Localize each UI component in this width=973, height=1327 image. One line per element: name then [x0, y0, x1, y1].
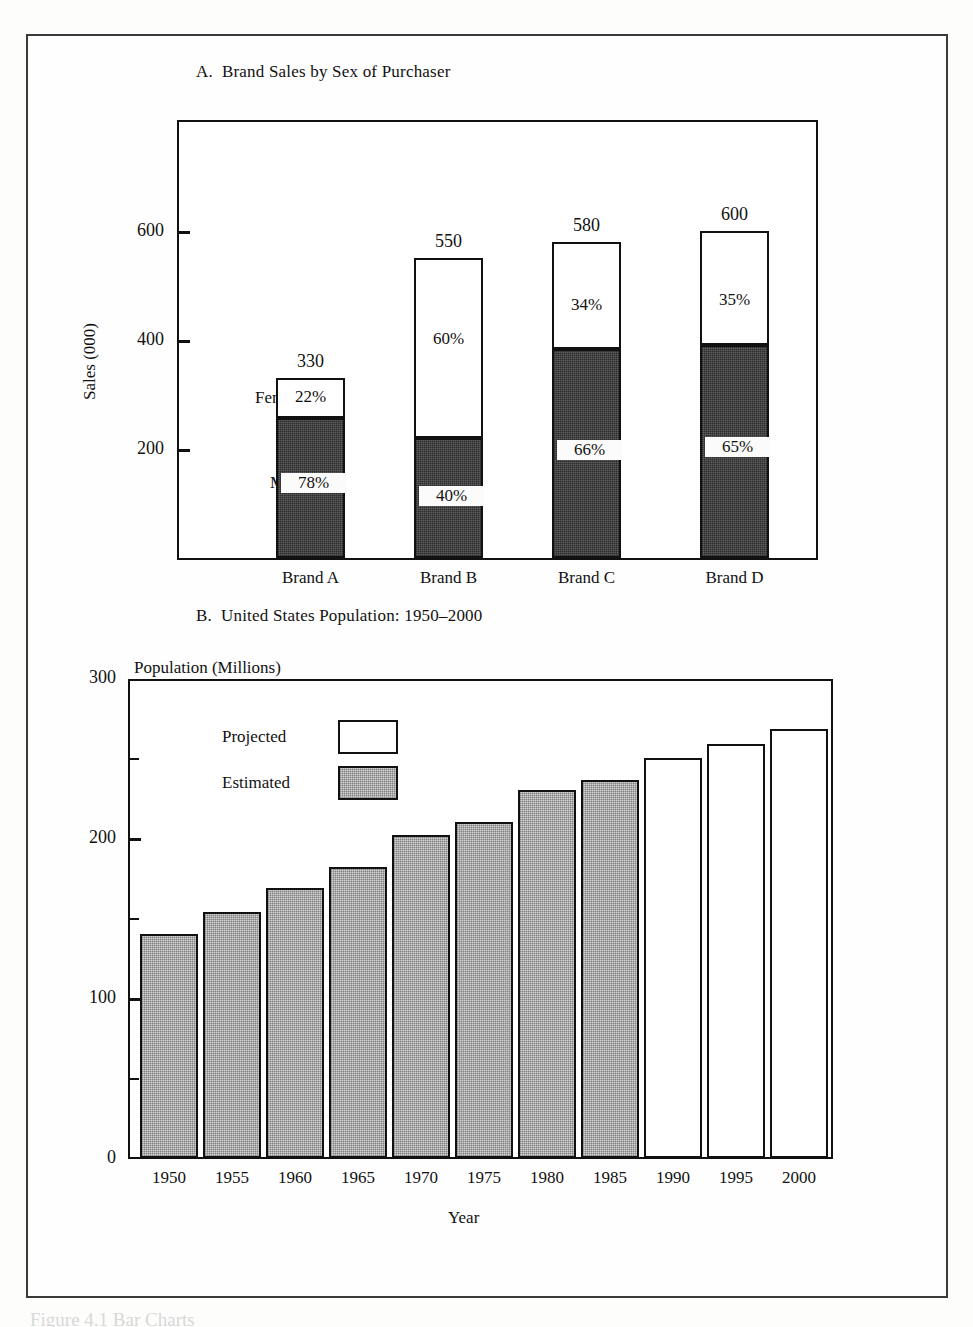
panel-b-tick-50 [128, 1078, 139, 1080]
panel-b-tick-250 [128, 758, 139, 760]
panel-b-bar-1980[interactable] [518, 790, 576, 1158]
panel-a-bar-brand-c[interactable] [552, 242, 621, 558]
panel-b-bar-1955[interactable] [203, 912, 261, 1158]
figure-caption: Figure 4.1 Bar Charts [30, 1309, 450, 1327]
panel-a-ytick-200: 200 [104, 438, 164, 459]
panel-a-pct-female-brand-a: 22% [276, 388, 345, 406]
panel-a-bar-brand-d[interactable] [700, 231, 769, 558]
panel-a-tick-600 [177, 231, 190, 234]
panel-b-ylabel: Population (Millions) [134, 658, 281, 678]
panel-b-ytick-200: 200 [60, 827, 116, 848]
panel-a-bar-brand-d-female [700, 231, 769, 345]
panel-b-category-2000: 2000 [752, 1168, 846, 1188]
panel-a-ytick-400: 400 [104, 329, 164, 350]
panel-a-pct-female-brand-b: 60% [414, 330, 483, 348]
panel-a-pct-male-brand-b: 40% [419, 486, 484, 506]
panel-b-bar-1975[interactable] [455, 822, 513, 1158]
panel-b-ytick-100: 100 [60, 987, 116, 1008]
panel-a-pct-male-brand-c: 66% [557, 440, 622, 460]
panel-a-pct-male-brand-a: 78% [281, 473, 346, 493]
panel-b-bar-1950[interactable] [140, 934, 198, 1158]
panel-a-tick-400 [177, 340, 190, 343]
panel-a-total-brand-a: 330 [266, 351, 355, 372]
panel-a-total-brand-d: 600 [690, 204, 779, 225]
panel-b-legend: Projected Estimated [222, 714, 398, 806]
panel-a-ylabel: Sales (000) [80, 323, 100, 400]
panel-a-total-brand-c: 580 [542, 215, 631, 236]
panel-b-title: B.United States Population: 1950–2000 [196, 606, 483, 626]
legend-swatch-estimated-icon [338, 766, 398, 800]
panel-a-title-text: Brand Sales by Sex of Purchaser [222, 62, 451, 81]
panel-a-tick-200 [177, 449, 190, 452]
legend-label-estimated: Estimated [222, 773, 330, 793]
panel-a-pct-male-brand-d: 65% [705, 437, 770, 457]
legend-item-projected: Projected [222, 714, 398, 760]
legend-label-projected: Projected [222, 727, 330, 747]
panel-a-bar-brand-b[interactable] [414, 258, 483, 558]
panel-a-category-brand-d: Brand D [685, 568, 784, 588]
panel-b-bar-1985[interactable] [581, 780, 639, 1158]
panel-b-xlabel: Year [448, 1208, 479, 1228]
panel-a-category-brand-a: Brand A [261, 568, 360, 588]
panel-a-bar-brand-b-female [414, 258, 483, 438]
panel-a-pct-female-brand-d: 35% [700, 291, 769, 309]
panel-a-category-brand-b: Brand B [399, 568, 498, 588]
panel-a-pct-female-brand-c: 34% [552, 296, 621, 314]
panel-b-tick-150 [128, 918, 139, 920]
panel-b-bar-1970[interactable] [392, 835, 450, 1158]
panel-b-tick-200 [128, 838, 141, 841]
panel-b-lead: B. [196, 606, 212, 625]
panel-b-title-text: United States Population: 1950–2000 [221, 606, 483, 625]
panel-b-bar-1995[interactable] [707, 744, 765, 1158]
panel-a-category-brand-c: Brand C [537, 568, 636, 588]
panel-b-bar-1960[interactable] [266, 888, 324, 1158]
panel-a-title: A.Brand Sales by Sex of Purchaser [196, 62, 451, 82]
panel-b-ytick-0: 0 [60, 1147, 116, 1168]
panel-b-bar-2000[interactable] [770, 729, 828, 1158]
panel-a-ytick-600: 600 [104, 220, 164, 241]
legend-swatch-projected-icon [338, 720, 398, 754]
panel-b-ytick-300: 300 [60, 667, 116, 688]
panel-a-total-brand-b: 550 [404, 231, 493, 252]
panel-a-lead: A. [196, 62, 213, 81]
panel-b-bar-1990[interactable] [644, 758, 702, 1158]
legend-item-estimated: Estimated [222, 760, 398, 806]
panel-b-bar-1965[interactable] [329, 867, 387, 1158]
